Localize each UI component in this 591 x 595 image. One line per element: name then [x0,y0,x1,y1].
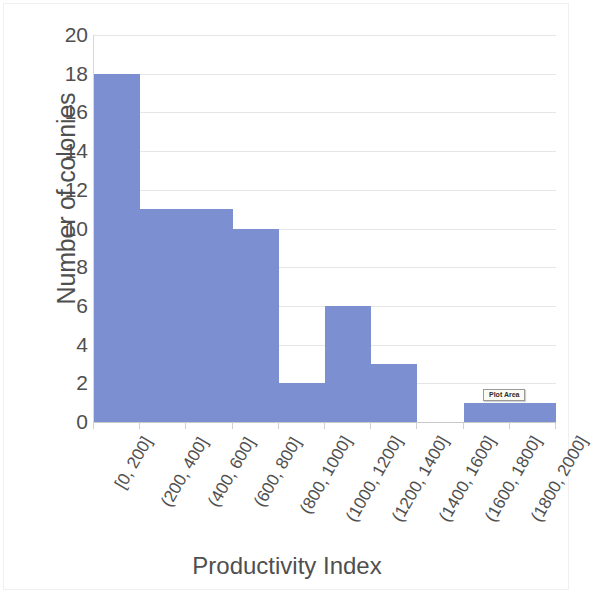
bar[interactable] [510,403,556,422]
y-axis-tick-label: 12 [38,179,88,200]
bar-series [94,35,556,422]
y-axis-tick-label: 0 [38,411,88,432]
x-axis-tick-mark [370,422,371,429]
x-axis-tick-label: (600, 800] [251,434,304,509]
y-axis-tick-label: 6 [38,295,88,316]
x-axis-tick-labels: [0, 200](200, 400](400, 600](600, 800](8… [93,430,555,540]
bar-cell [186,35,232,422]
bar[interactable] [325,306,371,422]
y-axis-tick-label: 10 [38,218,88,239]
y-axis-tick-label: 20 [38,24,88,45]
x-axis-tick-mark [324,422,325,429]
bar-cell [325,35,371,422]
y-axis-tick-label: 8 [38,256,88,277]
y-axis-tick-label: 4 [38,334,88,355]
bar[interactable] [371,364,417,422]
x-axis-tick-label: (200, 400] [158,434,211,509]
y-axis-tick-label: 16 [38,101,88,122]
x-axis-tick-mark [93,422,94,429]
bar-cell [464,35,510,422]
bar-cell [140,35,186,422]
plot-area-tooltip: Plot Area [483,389,525,401]
bar[interactable] [94,74,140,422]
x-axis-title: Productivity Index [0,552,574,580]
x-axis-tick-mark [463,422,464,429]
y-axis-tick-label: 2 [38,372,88,393]
y-axis-tick-label: 14 [38,140,88,161]
bar[interactable] [464,403,510,422]
y-axis-tick-labels: 02468101214161820 [38,25,88,430]
x-axis-tick-label: (800, 1000] [297,434,355,517]
bar-cell [417,35,463,422]
x-axis-tick-mark [139,422,140,429]
bar[interactable] [140,209,186,422]
bar[interactable] [233,229,279,423]
x-axis-tick-label: [0, 200] [112,434,155,492]
y-axis-tick-label: 18 [38,63,88,84]
x-axis-tick-mark [416,422,417,429]
x-axis-tick-mark [278,422,279,429]
x-axis-tick-label: (400, 600] [205,434,258,509]
x-axis-tick-marks [93,422,555,430]
bar-cell [94,35,140,422]
bar-cell [279,35,325,422]
x-axis-tick-mark [232,422,233,429]
x-axis-tick-mark [509,422,510,429]
bar-cell [371,35,417,422]
x-axis-tick-mark [555,422,556,429]
bar[interactable] [279,383,325,422]
plot-area[interactable] [93,35,556,423]
bar-cell [510,35,556,422]
bar[interactable] [186,209,232,422]
bar-cell [233,35,279,422]
x-axis-tick-mark [185,422,186,429]
